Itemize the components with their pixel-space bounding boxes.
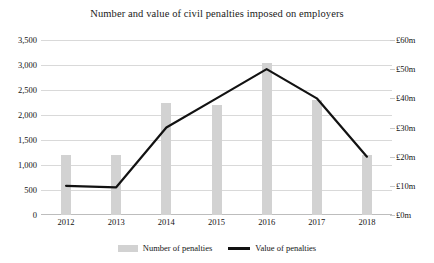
y-axis-right-tick-label: £60m [396, 35, 434, 45]
x-axis-tick-label-2017: 2017 [308, 217, 325, 227]
y-axis-right-tick-mark [390, 40, 395, 41]
y-axis-left-tick-label: 0 [1, 210, 37, 220]
y-axis-right-tick-label: £0m [396, 210, 434, 220]
legend-line-swatch-icon [228, 247, 250, 250]
y-axis-right-tick-mark [390, 157, 395, 158]
y-axis-right-tick-label: £10m [396, 181, 434, 191]
right-axis: £0m£10m£20m£30m£40m£50m£60m [396, 40, 434, 215]
legend-label-number-of-penalties: Number of penalties [143, 243, 212, 253]
y-axis-right-tick-mark [390, 186, 395, 187]
y-axis-left-tick-label: 3,500 [1, 35, 37, 45]
line-path-value-of-penalties [66, 69, 367, 187]
y-axis-right-tick-label: £40m [396, 93, 434, 103]
y-axis-right-tick-label: £50m [396, 64, 434, 74]
y-axis-left-tick-label: 3,000 [1, 60, 37, 70]
x-axis-tick-label-2018: 2018 [358, 217, 375, 227]
y-axis-right-tick-mark [390, 69, 395, 70]
x-axis-tick-label-2012: 2012 [58, 217, 75, 227]
chart-container: Number and value of civil penalties impo… [0, 0, 434, 263]
y-axis-left-tick-label: 2,500 [1, 85, 37, 95]
legend-item-number-of-penalties: Number of penalties [118, 243, 212, 253]
legend-item-value-of-penalties: Value of penalties [228, 243, 316, 253]
y-axis-left-tick-label: 2,000 [1, 110, 37, 120]
y-axis-right-tick-label: £30m [396, 123, 434, 133]
y-axis-right-tick-mark [390, 128, 395, 129]
y-axis-left-tick-label: 1,500 [1, 135, 37, 145]
y-axis-right-tick-mark [390, 215, 395, 216]
left-axis: 05001,0001,5002,0002,5003,0003,500 [0, 40, 37, 215]
legend-bar-swatch-icon [118, 245, 138, 252]
x-axis-tick-label-2013: 2013 [108, 217, 125, 227]
chart-title: Number and value of civil penalties impo… [0, 8, 434, 19]
chart-legend: Number of penalties Value of penalties [0, 243, 434, 253]
x-axis-tick-label-2015: 2015 [208, 217, 225, 227]
y-axis-right-tick-mark [390, 98, 395, 99]
x-axis-labels: 2012201320142015201620172018 [41, 217, 392, 231]
y-axis-right-tick-label: £20m [396, 152, 434, 162]
x-axis-tick-label-2016: 2016 [258, 217, 275, 227]
value-of-penalties-line [41, 40, 392, 215]
legend-label-value-of-penalties: Value of penalties [255, 243, 316, 253]
y-axis-left-tick-label: 500 [1, 185, 37, 195]
y-axis-left-tick-label: 1,000 [1, 160, 37, 170]
x-axis-tick-label-2014: 2014 [158, 217, 175, 227]
